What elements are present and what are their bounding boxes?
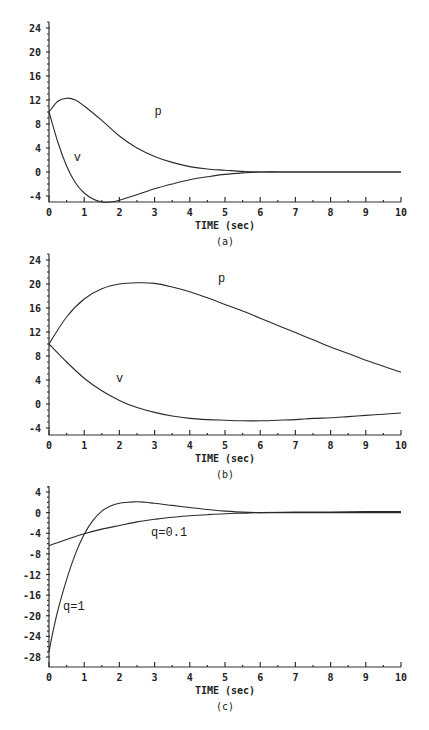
x-tick-label: 1 — [81, 672, 87, 683]
series-line-p — [49, 283, 401, 372]
x-tick-label: 10 — [395, 672, 407, 683]
x-axis-label: TIME (sec) — [195, 453, 255, 464]
y-tick-label: -4 — [29, 423, 41, 434]
x-tick-label: 7 — [292, 207, 298, 218]
y-tick-label: -4 — [29, 191, 41, 202]
panel-caption: (b) — [216, 469, 234, 480]
x-tick-label: 6 — [257, 672, 263, 683]
x-tick-label: 2 — [116, 672, 122, 683]
y-tick-label: -20 — [23, 611, 41, 622]
y-tick-label: 4 — [35, 487, 41, 498]
x-tick-label: 8 — [328, 440, 334, 451]
y-tick-label: 16 — [29, 71, 41, 82]
panel-caption: (a) — [216, 236, 234, 247]
y-tick-label: 0 — [35, 508, 41, 519]
series-annotation: p — [155, 105, 162, 119]
x-tick-label: 8 — [328, 207, 334, 218]
x-axis-label: TIME (sec) — [195, 685, 255, 696]
x-axis-label: TIME (sec) — [195, 220, 255, 231]
x-tick-label: 3 — [152, 672, 158, 683]
series-line-p — [49, 98, 401, 172]
y-tick-label: -28 — [23, 652, 41, 663]
x-tick-label: 4 — [187, 440, 193, 451]
x-tick-label: 8 — [328, 672, 334, 683]
x-tick-label: 5 — [222, 207, 228, 218]
y-tick-label: -4 — [29, 528, 41, 539]
x-tick-label: 6 — [257, 440, 263, 451]
y-tick-label: 20 — [29, 47, 41, 58]
x-tick-label: 5 — [222, 440, 228, 451]
series-annotation: p — [218, 272, 225, 286]
series-annotation: v — [116, 372, 123, 386]
x-tick-label: 1 — [81, 207, 87, 218]
chart-b: 012345678910-404812162024TIME (sec)(b)pv — [29, 254, 407, 480]
x-tick-label: 0 — [46, 672, 52, 683]
x-tick-label: 0 — [46, 207, 52, 218]
series-annotation: v — [74, 151, 81, 165]
y-tick-label: 24 — [29, 255, 41, 266]
y-tick-label: -12 — [23, 570, 41, 581]
panel-caption: (c) — [216, 701, 234, 712]
x-tick-label: 3 — [152, 207, 158, 218]
series-line-q01 — [49, 512, 401, 546]
figure-canvas: 012345678910-404812162024TIME (sec)(a)pv… — [0, 0, 429, 730]
y-tick-label: 4 — [35, 375, 41, 386]
y-tick-label: -24 — [23, 631, 41, 642]
x-tick-label: 1 — [81, 440, 87, 451]
x-tick-label: 2 — [116, 440, 122, 451]
series-line-v — [49, 344, 401, 421]
x-tick-label: 2 — [116, 207, 122, 218]
x-tick-label: 10 — [395, 440, 407, 451]
series-annotation: q=0.1 — [151, 526, 187, 540]
series-annotation: q=1 — [63, 600, 85, 614]
y-tick-label: 12 — [29, 95, 41, 106]
y-tick-label: 12 — [29, 327, 41, 338]
x-tick-label: 0 — [46, 440, 52, 451]
x-tick-label: 10 — [395, 207, 407, 218]
y-tick-label: -16 — [23, 590, 41, 601]
x-tick-label: 7 — [292, 440, 298, 451]
chart-a: 012345678910-404812162024TIME (sec)(a)pv — [29, 22, 407, 247]
y-tick-label: 0 — [35, 399, 41, 410]
axes-lines — [49, 22, 401, 202]
x-tick-label: 9 — [363, 672, 369, 683]
y-tick-label: 8 — [35, 119, 41, 130]
series-line-v — [49, 112, 401, 202]
x-tick-label: 3 — [152, 440, 158, 451]
series-line-q1 — [49, 502, 401, 652]
y-tick-label: 20 — [29, 279, 41, 290]
y-tick-label: 16 — [29, 303, 41, 314]
x-tick-label: 9 — [363, 440, 369, 451]
x-tick-label: 5 — [222, 672, 228, 683]
x-tick-label: 6 — [257, 207, 263, 218]
x-tick-label: 9 — [363, 207, 369, 218]
x-tick-label: 4 — [187, 672, 193, 683]
y-tick-label: -8 — [29, 549, 41, 560]
chart-c: 012345678910-28-24-20-16-12-8-404TIME (s… — [23, 486, 407, 712]
y-tick-label: 8 — [35, 351, 41, 362]
x-tick-label: 7 — [292, 672, 298, 683]
y-tick-label: 0 — [35, 167, 41, 178]
y-tick-label: 4 — [35, 143, 41, 154]
x-tick-label: 4 — [187, 207, 193, 218]
y-tick-label: 24 — [29, 23, 41, 34]
